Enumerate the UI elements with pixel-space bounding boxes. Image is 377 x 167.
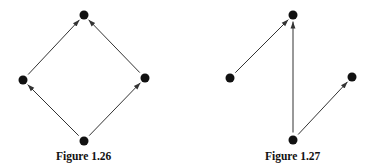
figure-1-26-caption: Figure 1.26 [56, 150, 111, 162]
node-bottom [80, 137, 89, 146]
node-top [289, 11, 298, 20]
node-right [348, 73, 357, 82]
node-bottom [289, 136, 298, 145]
node-left [19, 76, 28, 85]
figure-1-27-caption: Figure 1.27 [265, 150, 320, 162]
edge-arrow-left-to-top [235, 20, 288, 73]
edge-arrow-left-to-top [28, 20, 79, 75]
node-top [80, 11, 89, 20]
node-left [226, 74, 235, 83]
edge-arrow-bottom-to-right [298, 82, 347, 135]
edge-arrow-right-to-top [89, 20, 140, 73]
hasse-diagrams [0, 0, 377, 167]
figure-1-27-graph [226, 11, 357, 145]
figure-1-26-graph [19, 11, 150, 146]
node-right [141, 74, 150, 83]
edge-arrow-bottom-to-left [28, 85, 79, 136]
edge-arrow-bottom-to-right [89, 83, 140, 136]
